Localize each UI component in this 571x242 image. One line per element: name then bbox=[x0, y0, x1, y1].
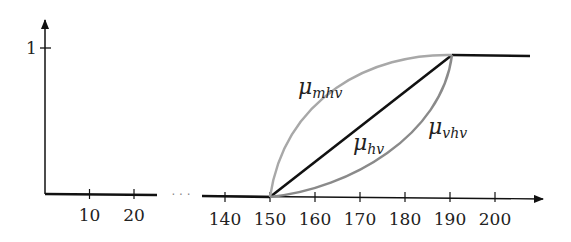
label-mu-mhv: μmhv bbox=[298, 74, 343, 101]
y-tick-label: 1 bbox=[26, 38, 37, 58]
x-tick-label: 10 bbox=[79, 205, 101, 225]
axes bbox=[40, 20, 543, 202]
x-tick-label: 160 bbox=[299, 209, 331, 229]
x-tick-label: 150 bbox=[254, 209, 286, 229]
x-tick-label: 20 bbox=[123, 205, 145, 225]
x-tick-label: 200 bbox=[479, 209, 511, 229]
x-tick-label: 170 bbox=[344, 209, 376, 229]
x-tick-label: 140 bbox=[209, 209, 241, 229]
x-tick-label: 180 bbox=[389, 209, 421, 229]
x-axis-left-segment bbox=[45, 194, 157, 195]
series-mu-hv-plateau bbox=[452, 55, 530, 56]
label-mu-hv: μhv bbox=[353, 130, 384, 157]
chart: 11020· · ·140150160170180190200μhvμmhvμv… bbox=[0, 0, 571, 242]
label-mu-vhv: μvhv bbox=[428, 114, 467, 141]
axis-break-ellipsis: · · · bbox=[171, 188, 190, 202]
baseline-series-segment bbox=[202, 196, 270, 197]
x-tick-label: 190 bbox=[434, 209, 466, 229]
